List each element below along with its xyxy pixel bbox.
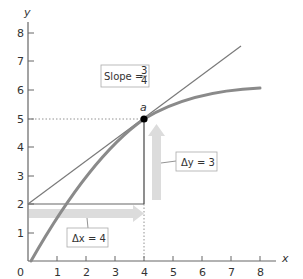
delta-y-label-box: Δy = 3 [176,152,217,171]
svg-text:6: 6 [199,266,206,279]
svg-text:1: 1 [17,227,24,240]
delta-y-arrow [148,124,165,200]
origin-label: 0 [17,266,24,279]
delta-x-arrow [29,205,144,222]
svg-text:8: 8 [17,27,24,40]
delta-x-leader [87,218,88,228]
delta-y-leader [161,161,176,163]
svg-text:Δx = 4: Δx = 4 [72,233,106,244]
svg-text:7: 7 [17,55,24,68]
y-axis-label: y [23,6,31,19]
slope-chart: y x 0 1 2 3 4 5 6 7 8 1 2 3 4 5 [0,0,303,279]
x-axis-label: x [281,252,289,265]
x-tick-labels: 1 2 3 4 5 6 7 8 [54,266,264,279]
svg-text:2: 2 [83,266,90,279]
svg-text:1: 1 [54,266,61,279]
svg-text:6: 6 [17,84,24,97]
svg-text:3: 3 [112,266,119,279]
svg-text:8: 8 [257,266,264,279]
svg-text:Slope =: Slope = [104,71,143,82]
svg-text:3: 3 [17,170,24,183]
y-tick-labels: 1 2 3 4 5 6 7 8 [17,27,24,240]
svg-text:5: 5 [17,113,24,126]
slope-label-box: Slope = 3 4 [101,65,149,87]
svg-text:5: 5 [170,266,177,279]
svg-text:4: 4 [141,75,147,86]
svg-text:4: 4 [17,141,24,154]
point-a-label: a [140,101,147,114]
svg-text:Δy = 3: Δy = 3 [181,157,215,168]
svg-text:2: 2 [17,198,24,211]
x-ticks [57,256,260,261]
svg-text:7: 7 [228,266,235,279]
svg-text:4: 4 [141,266,148,279]
delta-x-label-box: Δx = 4 [67,228,108,247]
point-a [140,115,147,122]
